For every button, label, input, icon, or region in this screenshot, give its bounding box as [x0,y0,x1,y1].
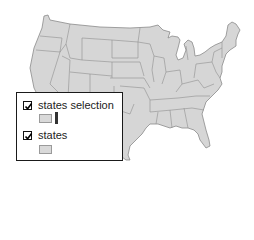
states-selection-polygon-swatch [39,114,52,123]
layer-label-states-selection: states selection [38,99,114,111]
states-polygon-swatch [39,145,52,154]
states-checkbox[interactable] [23,131,32,140]
legend-row-states: states [23,129,67,141]
map-legend: states selection states [16,92,123,161]
checkmark-icon [24,102,33,111]
layer-label-states: states [38,129,67,141]
selection-highlight-bar [55,112,58,124]
legend-row-states-selection: states selection [23,99,114,111]
states-selection-checkbox[interactable] [23,101,32,110]
checkmark-icon [24,132,33,141]
